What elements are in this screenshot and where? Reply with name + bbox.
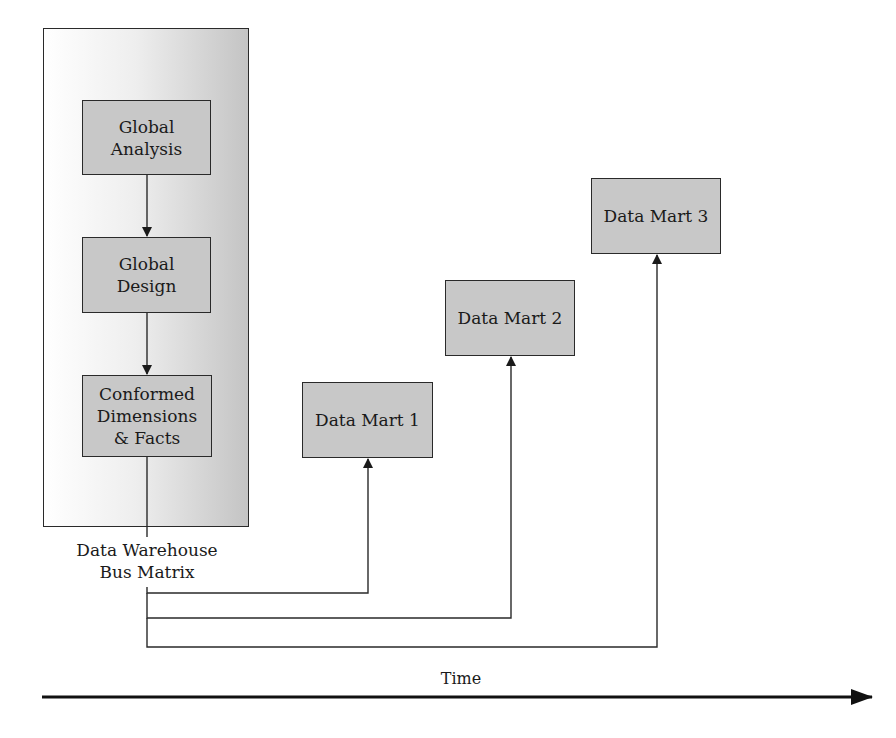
arrow-bus-to-mart-1 — [147, 459, 368, 593]
time-label: Time — [411, 668, 511, 690]
time-text: Time — [441, 669, 481, 688]
arrow-bus-to-mart-2 — [147, 357, 511, 618]
connector-lines — [0, 0, 896, 738]
arrow-bus-to-mart-3 — [147, 255, 657, 647]
